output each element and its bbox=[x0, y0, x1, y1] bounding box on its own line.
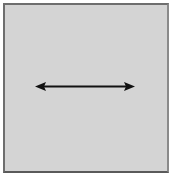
double-headed-arrow-icon bbox=[0, 0, 173, 180]
